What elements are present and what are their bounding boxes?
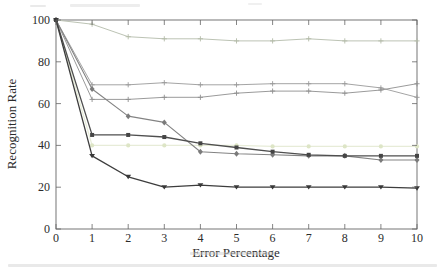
plus-marker-icon <box>342 81 347 86</box>
diamond-marker-icon <box>90 86 95 92</box>
x-tick-label: 2 <box>125 231 131 245</box>
plus-marker-icon <box>306 81 311 86</box>
x-tick-label: 0 <box>53 231 59 245</box>
plus-marker-icon <box>378 38 383 43</box>
line-chart-canvas: 012345678910020406080100 Error Percentag… <box>0 0 445 270</box>
square-marker-icon <box>198 141 202 145</box>
cropped-text-artifact <box>70 4 140 7</box>
circle-marker-icon <box>126 143 130 147</box>
plus-marker-icon <box>162 95 167 100</box>
plot-frame <box>56 20 417 229</box>
plus-marker-icon <box>198 95 203 100</box>
plus-marker-icon <box>414 38 419 43</box>
y-tick-label: 80 <box>38 55 50 69</box>
square-marker-icon <box>343 154 347 158</box>
y-tick-label: 40 <box>38 138 50 152</box>
cropped-band-artifact <box>8 264 437 267</box>
plot-border <box>56 20 417 229</box>
x-tick-label: 7 <box>306 231 312 245</box>
square-marker-icon <box>235 145 239 149</box>
circle-marker-icon <box>162 143 166 147</box>
plus-marker-icon <box>198 36 203 41</box>
square-marker-icon <box>271 150 275 154</box>
x-tick-label: 9 <box>378 231 384 245</box>
plus-marker-icon <box>162 80 167 85</box>
square-marker-icon <box>126 133 130 137</box>
series-line-dark-triangle-line <box>56 20 417 188</box>
circle-marker-icon <box>343 144 347 148</box>
plus-marker-icon <box>270 81 275 86</box>
cropped-text-artifact <box>248 3 262 5</box>
series-line-gray-plus-line-lower <box>56 20 417 99</box>
plot-series-group <box>53 17 420 191</box>
plus-marker-icon <box>342 38 347 43</box>
circle-marker-icon <box>415 144 419 148</box>
plus-marker-icon <box>414 95 419 100</box>
plus-marker-icon <box>342 91 347 96</box>
cropped-caption-artifact <box>190 252 275 255</box>
x-tick-label: 1 <box>89 231 95 245</box>
plus-marker-icon <box>126 82 131 87</box>
plus-marker-icon <box>234 82 239 87</box>
plus-marker-icon <box>126 97 131 102</box>
x-tick-label: 3 <box>161 231 167 245</box>
plus-marker-icon <box>306 88 311 93</box>
plus-marker-icon <box>234 38 239 43</box>
plus-marker-icon <box>162 36 167 41</box>
plus-marker-icon <box>198 82 203 87</box>
plus-marker-icon <box>126 34 131 39</box>
plus-marker-icon <box>270 38 275 43</box>
square-marker-icon <box>162 135 166 139</box>
plus-marker-icon <box>306 36 311 41</box>
circle-marker-icon <box>90 143 94 147</box>
y-tick-label: 100 <box>32 13 50 27</box>
x-tick-label: 10 <box>411 231 423 245</box>
diamond-marker-icon <box>415 157 420 163</box>
diamond-marker-icon <box>126 113 131 119</box>
cropped-text-artifact <box>30 5 46 7</box>
square-marker-icon <box>379 154 383 158</box>
y-tick-label: 0 <box>44 222 50 236</box>
x-tick-label: 6 <box>270 231 276 245</box>
circle-marker-icon <box>271 144 275 148</box>
square-marker-icon <box>90 133 94 137</box>
x-tick-label: 4 <box>197 231 203 245</box>
diamond-marker-icon <box>234 151 239 157</box>
x-tick-label: 8 <box>342 231 348 245</box>
y-axis-label: Recognition Rate <box>4 78 19 169</box>
square-marker-icon <box>415 154 419 158</box>
circle-marker-icon <box>379 144 383 148</box>
plus-marker-icon <box>270 88 275 93</box>
plus-marker-icon <box>234 91 239 96</box>
circle-marker-icon <box>307 144 311 148</box>
y-tick-label: 60 <box>38 97 50 111</box>
diamond-marker-icon <box>198 149 203 155</box>
plus-marker-icon <box>90 97 95 102</box>
plus-marker-icon <box>414 81 419 86</box>
y-tick-label: 20 <box>38 180 50 194</box>
figure-page: 012345678910020406080100 Error Percentag… <box>0 0 445 270</box>
series-dark-triangle-line <box>53 18 420 191</box>
diamond-marker-icon <box>378 157 383 163</box>
square-marker-icon <box>307 153 311 157</box>
x-tick-label: 5 <box>234 231 240 245</box>
